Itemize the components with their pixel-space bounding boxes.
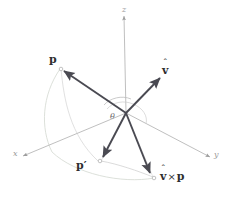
label-vector-p: p xyxy=(49,54,57,65)
label-vector-v-cross-p: ˆ v ×p xyxy=(160,171,185,182)
marker-p xyxy=(59,67,63,71)
label-x-axis: x xyxy=(13,150,18,158)
label-vector-p-prime: p′ xyxy=(76,160,87,171)
v-hat-glyph: ˆ v xyxy=(162,65,168,76)
label-cross-p: p xyxy=(177,170,185,183)
y-axis xyxy=(126,113,210,157)
vector-p xyxy=(64,71,126,113)
cross-product-icon: × xyxy=(166,171,176,182)
v-hat-glyph-cross: ˆ v xyxy=(160,171,166,182)
vector-v-hat xyxy=(126,78,160,113)
label-y-axis: y xyxy=(214,151,219,159)
marker-v-cross-p xyxy=(152,176,156,180)
figure-canvas: p p′ ˆ v ˆ v ×p θ x y z xyxy=(0,0,231,204)
endpoint-markers xyxy=(59,67,156,180)
hat-accent-icon: ˆ xyxy=(161,164,166,174)
hat-accent-icon: ˆ xyxy=(163,58,168,68)
coordinate-axes xyxy=(23,16,210,157)
label-z-axis: z xyxy=(122,6,126,14)
label-theta: θ xyxy=(110,113,115,121)
z-axis xyxy=(124,16,126,113)
main-vectors xyxy=(64,71,160,173)
label-vector-v-hat: ˆ v xyxy=(162,65,168,76)
vector-diagram-svg xyxy=(0,0,231,204)
marker-p-prime xyxy=(98,159,102,163)
